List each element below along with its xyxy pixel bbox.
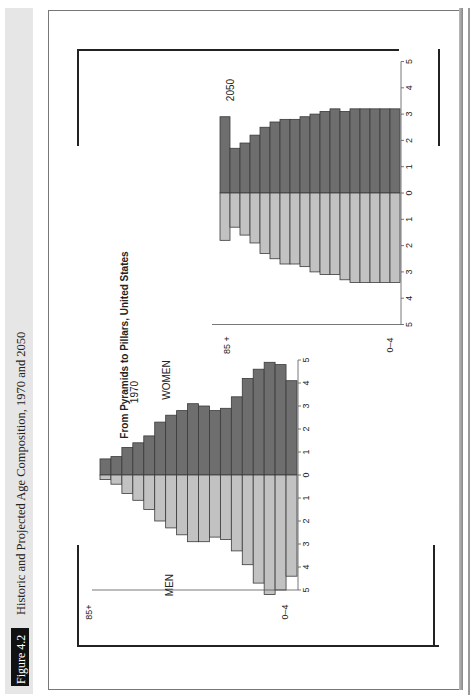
bar-men — [340, 193, 350, 280]
bar-men — [166, 475, 177, 528]
bar-women — [286, 381, 297, 475]
tick-label: 3 — [301, 403, 311, 408]
category-label-bottom: 0–4 — [385, 337, 395, 352]
tick-label: 1 — [301, 449, 311, 454]
tick-label: 0 — [301, 472, 311, 477]
tick-label: 4 — [404, 296, 414, 301]
bar-women — [144, 436, 155, 475]
bar-men — [380, 193, 390, 282]
bar-men — [199, 475, 210, 542]
tick-label: 2 — [301, 518, 311, 523]
bar-women — [188, 404, 199, 475]
tick-label: 5 — [301, 587, 311, 592]
bar-men — [253, 475, 264, 583]
tick-label: 3 — [301, 541, 311, 546]
year-label-1970: 1970 — [129, 380, 140, 403]
bar-women — [155, 422, 166, 475]
bar-women — [166, 415, 177, 475]
bar-women — [360, 109, 370, 193]
tick-label: 3 — [404, 112, 414, 117]
bar-women — [199, 406, 210, 475]
bar-women — [270, 122, 280, 193]
bar-women — [330, 109, 340, 193]
bar-women — [300, 117, 310, 193]
bar-women — [111, 457, 122, 475]
bar-men — [209, 475, 220, 537]
bar-men — [188, 475, 199, 542]
bar-women — [230, 148, 240, 193]
tick-label: 3 — [404, 269, 414, 274]
bar-men — [300, 193, 310, 267]
bar-women — [242, 378, 253, 475]
category-label-bottom: 0–4 — [280, 604, 290, 619]
bar-men — [360, 193, 370, 282]
bar-men — [390, 193, 400, 282]
bar-men — [275, 475, 286, 590]
tick-label: 1 — [404, 217, 414, 222]
bar-women — [264, 362, 275, 475]
bar-women — [220, 117, 230, 193]
bar-women — [380, 109, 390, 193]
bar-women — [370, 109, 380, 193]
tick-label: 5 — [301, 357, 311, 362]
bar-men — [350, 193, 360, 282]
bar-men — [177, 475, 188, 535]
bar-men — [260, 193, 270, 253]
series-label-women: WOMEN — [161, 360, 172, 399]
bar-men — [286, 475, 297, 576]
bar-women — [275, 365, 286, 475]
tick-label: 4 — [301, 564, 311, 569]
bar-women — [240, 143, 250, 193]
bar-men — [264, 475, 275, 595]
bar-women — [290, 119, 300, 193]
tick-label: 5 — [404, 59, 414, 64]
bar-women — [250, 135, 260, 193]
bar-men — [155, 475, 166, 521]
bar-women — [320, 111, 330, 193]
tick-label: 0 — [404, 190, 414, 195]
bar-women — [390, 109, 400, 193]
tick-label: 5 — [404, 322, 414, 327]
bar-men — [122, 475, 133, 493]
tick-label: 2 — [301, 426, 311, 431]
bar-women — [231, 397, 242, 475]
bar-women — [209, 411, 220, 475]
bar-women — [260, 127, 270, 193]
bar-men — [330, 193, 340, 275]
bar-men — [220, 475, 231, 539]
bar-women — [340, 111, 350, 193]
bar-women — [253, 369, 264, 475]
bar-men — [250, 193, 260, 243]
bar-men — [144, 475, 155, 510]
bar-men — [320, 193, 330, 275]
year-label-2050: 2050 — [225, 78, 236, 101]
tick-label: 2 — [404, 243, 414, 248]
bar-men — [230, 193, 240, 227]
bar-men — [240, 193, 250, 235]
tick-label: 4 — [404, 85, 414, 90]
series-label-men: MEN — [164, 574, 175, 596]
bar-men — [290, 193, 300, 264]
bar-men — [231, 475, 242, 551]
tick-label: 2 — [404, 138, 414, 143]
category-label-top: 85 + — [222, 336, 232, 354]
bar-men — [100, 475, 111, 480]
bar-men — [133, 475, 144, 500]
category-label-top: 85+ — [84, 604, 94, 619]
chart-title: From Pyramids to Pillars, United States — [119, 251, 130, 439]
bar-women — [177, 411, 188, 475]
bar-women — [220, 408, 231, 475]
bar-men — [242, 475, 253, 565]
bar-men — [111, 475, 122, 484]
bar-women — [350, 109, 360, 193]
bar-men — [220, 193, 230, 240]
bar-women — [122, 447, 133, 475]
tick-label: 1 — [404, 164, 414, 169]
tick-label: 1 — [301, 495, 311, 500]
bar-men — [370, 193, 380, 282]
bar-men — [270, 193, 280, 259]
bar-women — [133, 443, 144, 475]
bar-men — [310, 193, 320, 272]
bar-women — [280, 119, 290, 193]
bar-women — [100, 459, 111, 475]
